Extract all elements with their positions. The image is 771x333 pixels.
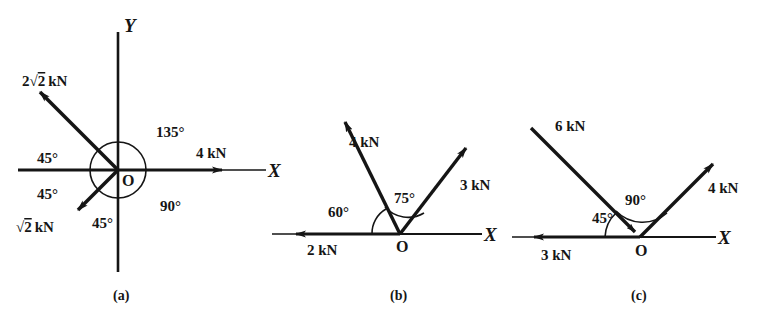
- panel-b-force-4kn-label: 4 kN: [349, 134, 380, 150]
- panel-a-origin-label: O: [122, 172, 134, 189]
- panel-b-angle-60-label: 60°: [328, 204, 349, 220]
- svg-text:2√2kN: 2√2kN: [22, 73, 68, 89]
- panel-b-angle-75-label: 75°: [394, 190, 415, 206]
- panel-c-origin-label: O: [635, 242, 647, 259]
- panel-a-angle-45-bottom-label: 45°: [92, 215, 113, 231]
- panel-b-caption: (b): [390, 288, 407, 304]
- panel-a-angle-90-label: 90°: [160, 198, 181, 214]
- panel-a-angle-45-lower-left-label: 45°: [37, 186, 58, 202]
- panel-a-force-root2kn-label: √2kN: [16, 219, 54, 235]
- panel-b-origin-label: O: [396, 238, 408, 255]
- panel-c-angle-45-label: 45°: [592, 210, 613, 226]
- panel-a-angle-45-upper-left-label: 45°: [37, 150, 58, 166]
- panel-a-force-2root2kn-unit: kN: [48, 73, 67, 89]
- svg-text:√2kN: √2kN: [16, 219, 54, 235]
- panel-a-caption: (a): [113, 288, 130, 304]
- panel-c-force-6kn-vector: [531, 128, 635, 232]
- panel-c-force-6kn-label: 6 kN: [555, 118, 586, 134]
- panel-a-force-2root2kn-label: 2√2kN: [22, 73, 68, 89]
- panel-b-force-3kn-label: 3 kN: [460, 177, 491, 193]
- panel-c-force-4kn-vector: [640, 164, 713, 237]
- panel-a-force-2root2kn-coefficient: 2: [22, 73, 30, 89]
- panel-b-x-axis-label: X: [483, 224, 498, 245]
- panel-b-force-2kn-label: 2 kN: [307, 242, 338, 258]
- panel-a-force-root2kn-unit: kN: [35, 219, 54, 235]
- panel-a-force-2root2kn-radicand: 2: [38, 73, 46, 89]
- panel-c-angle-90-label: 90°: [625, 192, 646, 208]
- panel-a-force-root2kn-vector: [78, 170, 118, 210]
- panel-c-force-4kn-label: 4 kN: [708, 180, 739, 196]
- panel-a-force-root2kn-radicand: 2: [24, 219, 32, 235]
- panel-a-force-4kn-label: 4 kN: [196, 145, 227, 161]
- panel-c-x-axis-label: X: [717, 227, 732, 248]
- panel-a-angle-135-label: 135°: [156, 124, 185, 140]
- panel-c-force-3kn-label: 3 kN: [541, 247, 572, 263]
- panel-c-caption: (c): [631, 288, 647, 304]
- panel-a-y-axis-label: Y: [124, 15, 138, 36]
- panel-b: X 4 kN 3 kN 2 kN 60° 75° O (b): [272, 122, 498, 304]
- panel-a-x-axis-label: X: [267, 160, 282, 181]
- panel-a: Y X 2√2kN √2kN 4 kN 135° 90° 45° 45°: [16, 15, 282, 304]
- panel-b-angle-60-arc: [372, 209, 386, 234]
- force-diagram-figure: Y X 2√2kN √2kN 4 kN 135° 90° 45° 45°: [0, 0, 771, 333]
- panel-c: X 6 kN 4 kN 3 kN 45° 90° O (c): [512, 118, 739, 304]
